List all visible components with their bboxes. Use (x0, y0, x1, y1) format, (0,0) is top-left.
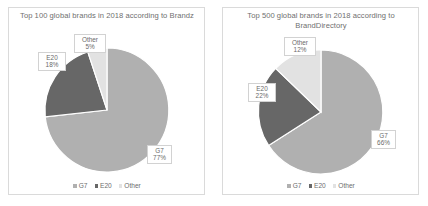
legend-label-g7: G7 (79, 182, 88, 190)
legend-swatch-icon-other (333, 184, 337, 188)
chart-panel-brandz: Top 100 global brands in 2018 according … (0, 0, 214, 206)
legend-item-e20: E20 (95, 182, 112, 190)
legend-item-other: Other (119, 182, 141, 190)
legend-swatch-icon-e20 (309, 184, 313, 188)
legend-label-e20: E20 (100, 182, 112, 190)
pie-chart-branddirectory (214, 0, 428, 206)
pie-area: Other 12% E20 22% G7 66% (214, 0, 428, 206)
data-label-other: Other 5% (74, 34, 106, 53)
legend-item-g7: G7 (73, 182, 87, 190)
legend-item-g7: G7 (287, 182, 301, 190)
two-pie-chart-figure: Top 100 global brands in 2018 according … (0, 0, 428, 206)
legend-item-e20: E20 (309, 182, 326, 190)
legend-label-g7: G7 (293, 182, 302, 190)
legend-swatch-icon-g7 (73, 184, 77, 188)
legend-label-other: Other (124, 182, 141, 190)
legend-item-other: Other (333, 182, 355, 190)
data-label-e20: E20 22% (248, 83, 276, 102)
data-label-other: Other 12% (284, 37, 316, 56)
legend-swatch-icon-e20 (95, 184, 99, 188)
legend-swatch-icon-other (119, 184, 123, 188)
data-label-g7: G7 77% (147, 145, 172, 164)
legend-label-other: Other (338, 182, 355, 190)
pie-chart-brandz (0, 0, 214, 206)
data-label-e20: E20 18% (38, 52, 66, 71)
legend-label-e20: E20 (314, 182, 326, 190)
legend-swatch-icon-g7 (287, 184, 291, 188)
legend: G7 E20 Other (214, 182, 428, 190)
legend: G7 E20 Other (0, 182, 214, 190)
pie-area: Other 5% E20 18% G7 77% (0, 0, 214, 206)
chart-panel-branddirectory: Top 500 global brands in 2018 according … (214, 0, 428, 206)
data-label-g7: G7 66% (371, 130, 396, 149)
